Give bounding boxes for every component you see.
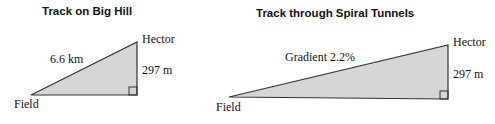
spiral-tunnels-title: Track through Spiral Tunnels: [256, 7, 414, 19]
spiral-gradient-label: Gradient 2.2%: [285, 50, 355, 65]
big-hill-hypotenuse-label: 6.6 km: [50, 52, 83, 67]
big-hill-hector-label: Hector: [142, 32, 175, 47]
big-hill-height-label: 297 m: [142, 63, 172, 78]
spiral-height-label: 297 m: [453, 67, 483, 82]
big-hill-triangle: [31, 42, 137, 95]
big-hill-title: Track on Big Hill: [42, 5, 132, 17]
spiral-field-label: Field: [216, 100, 241, 115]
big-hill-field-label: Field: [14, 97, 39, 112]
spiral-hector-label: Hector: [453, 35, 486, 50]
